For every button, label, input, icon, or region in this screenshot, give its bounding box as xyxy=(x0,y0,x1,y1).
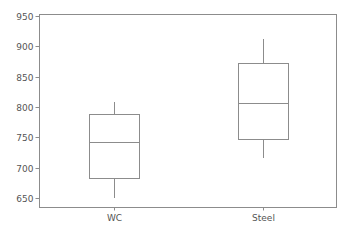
y-tick-label: 950 xyxy=(16,12,33,22)
y-tick-label: 900 xyxy=(16,42,33,52)
box-plot-chart: 650700750800850900950 WCSteel xyxy=(0,0,353,232)
x-tick-label-steel: Steel xyxy=(252,213,275,223)
y-tick-label: 650 xyxy=(16,194,33,204)
x-axis: WCSteel xyxy=(107,208,275,224)
y-axis: 650700750800850900950 xyxy=(16,12,39,204)
iqr-box xyxy=(90,115,140,179)
y-tick-label: 800 xyxy=(16,103,33,113)
plot-frame xyxy=(40,15,337,208)
y-tick-label: 750 xyxy=(16,133,33,143)
box-steel xyxy=(239,39,289,158)
y-tick-label: 700 xyxy=(16,164,33,174)
box-wc xyxy=(90,102,140,198)
chart-svg: 650700750800850900950 WCSteel xyxy=(0,0,353,232)
iqr-box xyxy=(239,64,289,140)
y-tick-label: 850 xyxy=(16,73,33,83)
x-tick-label-wc: WC xyxy=(107,213,122,223)
boxes xyxy=(90,39,289,198)
